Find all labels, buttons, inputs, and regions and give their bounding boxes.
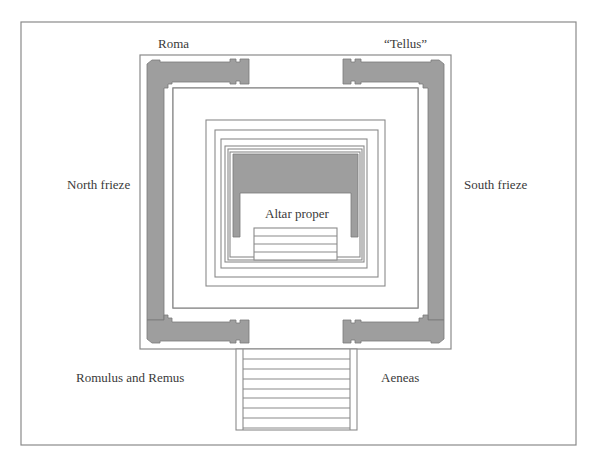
label-roma: Roma	[158, 37, 189, 51]
label-tellus: “Tellus”	[384, 37, 427, 51]
front-stairs	[236, 349, 357, 430]
altar-steps	[254, 228, 337, 260]
label-altar-proper: Altar proper	[265, 207, 329, 221]
label-aeneas: Aeneas	[381, 371, 419, 385]
label-north-frieze: North frieze	[67, 178, 130, 192]
label-romulus-remus: Romulus and Remus	[76, 371, 184, 385]
altar-plan-diagram	[0, 0, 595, 462]
label-south-frieze: South frieze	[464, 178, 527, 192]
